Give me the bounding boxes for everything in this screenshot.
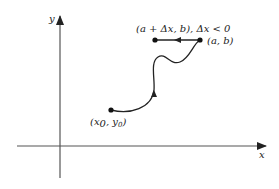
path-diagram: y x (a + Δx, b), Δx < 0 (a, b) (x0, y0)	[0, 0, 279, 189]
path-curve	[111, 40, 200, 112]
shifted-point-label: (a + Δx, b), Δx < 0	[136, 23, 231, 34]
curve-direction-arrow-icon	[151, 90, 157, 97]
y-axis-label: y	[48, 13, 55, 24]
segment-direction-arrow-icon	[174, 37, 181, 43]
end-point-label: (a, b)	[207, 35, 234, 46]
shifted-point-dot	[152, 37, 157, 42]
end-point-dot	[197, 37, 202, 42]
x-axis-label: x	[259, 149, 265, 160]
start-point-dot	[108, 107, 113, 112]
start-point-label: (x0, y0)	[90, 116, 126, 129]
